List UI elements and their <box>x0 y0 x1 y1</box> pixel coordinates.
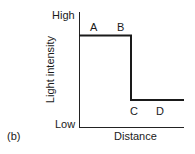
chart-canvas <box>0 0 195 154</box>
point-label-b: B <box>117 22 124 33</box>
point-label-a: A <box>90 22 97 33</box>
point-label-c: C <box>130 106 138 117</box>
y-axis-label: Light intensity <box>45 30 56 110</box>
intensity-line <box>79 36 184 101</box>
y-tick-high: High <box>52 10 75 21</box>
figure-label: (b) <box>7 131 20 142</box>
point-label-d: D <box>156 106 164 117</box>
x-axis-label: Distance <box>114 131 157 142</box>
y-tick-low: Low <box>55 119 75 130</box>
